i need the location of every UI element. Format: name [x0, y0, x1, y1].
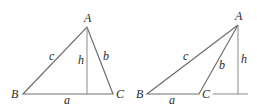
side-c-label: c — [49, 49, 55, 63]
vertex-c-label: C — [116, 87, 125, 101]
altitude-h-label: h — [78, 53, 84, 67]
vertex-b-label: B — [136, 87, 144, 101]
vertex-a-label: A — [234, 9, 243, 23]
triangle-diagrams: A B C c h b a A B C c b h a — [0, 0, 257, 107]
vertex-c-label: C — [202, 87, 211, 101]
side-b-label: b — [103, 49, 109, 63]
vertex-a-label: A — [83, 11, 92, 25]
side-a-label: a — [64, 93, 70, 107]
obtuse-triangle: A B C c b h a — [136, 9, 248, 107]
side-b-label: b — [219, 58, 225, 72]
vertex-b-label: B — [11, 87, 19, 101]
side-a-label: a — [169, 93, 175, 107]
side-c-label: c — [183, 49, 189, 63]
altitude-h-label: h — [241, 52, 247, 66]
acute-triangle: A B C c h b a — [11, 11, 125, 107]
triangle-outline — [23, 27, 113, 94]
